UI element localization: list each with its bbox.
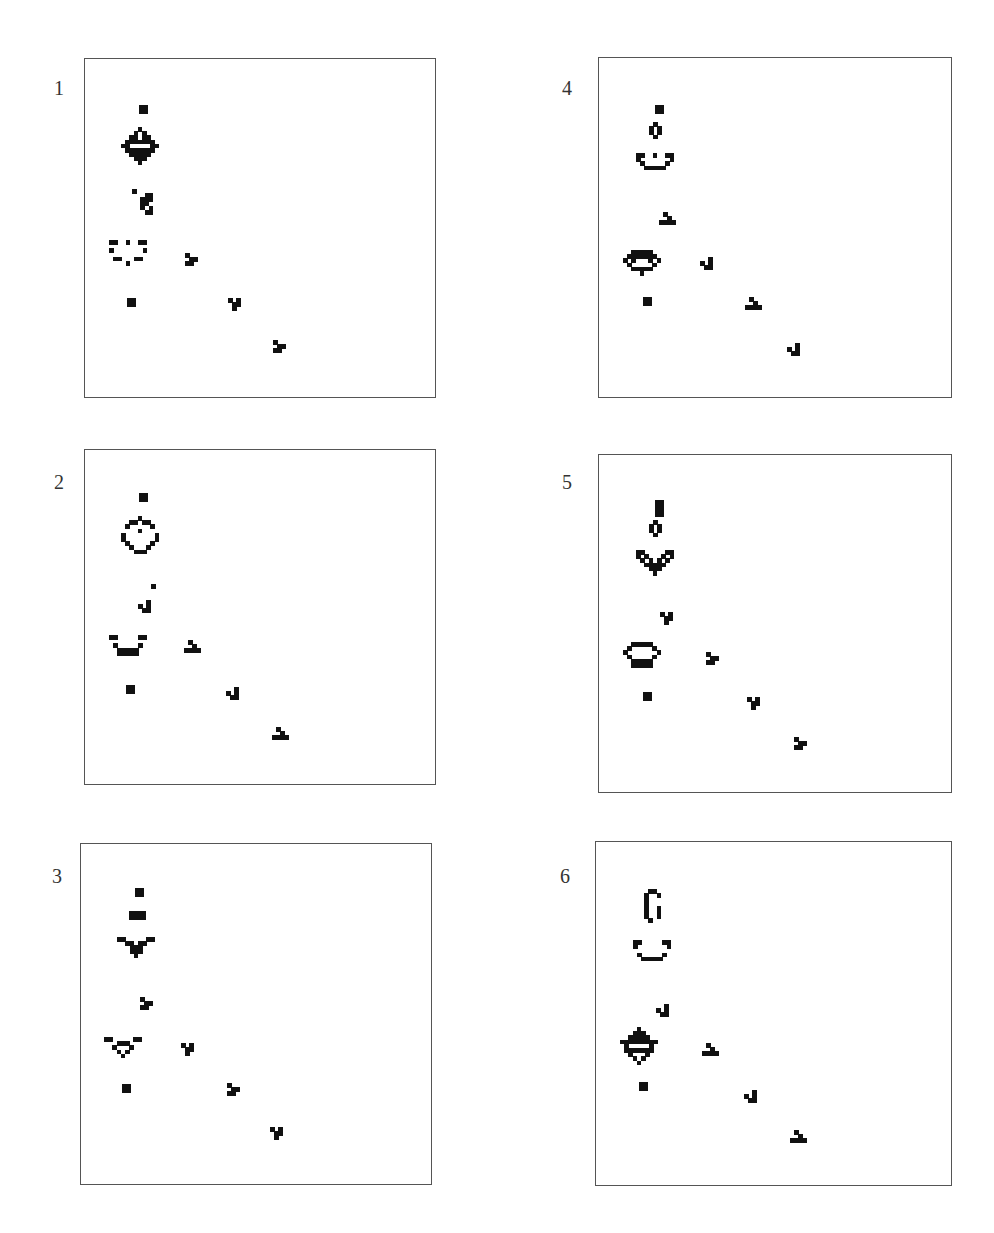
live-cell bbox=[649, 1048, 654, 1053]
panel-frame-1 bbox=[84, 58, 436, 398]
live-cell bbox=[653, 571, 658, 576]
panel-frame-3 bbox=[80, 843, 432, 1185]
live-cell bbox=[627, 646, 632, 651]
live-cell bbox=[146, 608, 151, 613]
live-cell bbox=[648, 663, 653, 668]
live-cell bbox=[654, 1040, 659, 1045]
live-cell bbox=[155, 144, 160, 149]
live-cell bbox=[130, 689, 135, 694]
live-cell bbox=[132, 189, 137, 194]
live-cell bbox=[667, 944, 672, 949]
live-cell bbox=[662, 953, 667, 958]
panel-frame-5 bbox=[598, 454, 952, 793]
panel-label: 4 bbox=[562, 78, 572, 98]
live-cell bbox=[138, 257, 143, 262]
live-cell bbox=[661, 166, 666, 171]
live-cell bbox=[126, 240, 131, 245]
live-cell bbox=[155, 537, 160, 542]
live-cell bbox=[657, 567, 662, 572]
live-cell bbox=[664, 620, 669, 625]
live-cell bbox=[710, 660, 715, 665]
live-cell bbox=[653, 135, 658, 140]
live-cell bbox=[139, 892, 144, 897]
live-cell bbox=[144, 1005, 149, 1010]
live-cell bbox=[647, 696, 652, 701]
live-cell bbox=[142, 550, 147, 555]
live-cell bbox=[235, 1087, 240, 1092]
live-cell bbox=[795, 351, 800, 356]
panel-label: 6 bbox=[560, 866, 570, 886]
live-cell bbox=[278, 1131, 283, 1136]
live-cell bbox=[134, 954, 139, 959]
live-cell bbox=[109, 248, 114, 253]
live-cell bbox=[138, 161, 143, 166]
live-cell bbox=[640, 153, 645, 158]
live-cell bbox=[113, 635, 118, 640]
live-cell bbox=[129, 1045, 134, 1050]
panel-label: 1 bbox=[54, 78, 64, 98]
live-cell bbox=[281, 344, 286, 349]
live-cell bbox=[802, 741, 807, 746]
live-cell bbox=[125, 524, 130, 529]
live-cell bbox=[665, 161, 670, 166]
live-cell bbox=[149, 197, 154, 202]
live-cell bbox=[659, 513, 664, 518]
live-cell bbox=[648, 918, 653, 923]
live-cell bbox=[108, 1037, 113, 1042]
live-cell bbox=[647, 301, 652, 306]
live-cell bbox=[121, 1054, 126, 1059]
live-cell bbox=[274, 1135, 279, 1140]
live-cell bbox=[752, 1098, 757, 1103]
live-cell bbox=[231, 1091, 236, 1096]
live-cell bbox=[657, 650, 662, 655]
live-cell bbox=[125, 1050, 130, 1055]
live-cell bbox=[189, 1047, 194, 1052]
live-cell bbox=[751, 705, 756, 710]
live-cell bbox=[134, 520, 139, 525]
live-cell bbox=[664, 1012, 669, 1017]
live-cell bbox=[277, 348, 282, 353]
live-cell bbox=[234, 695, 239, 700]
live-cell bbox=[113, 240, 118, 245]
live-cell bbox=[758, 305, 763, 310]
live-cell bbox=[143, 109, 148, 114]
live-cell bbox=[637, 1061, 642, 1066]
live-cell bbox=[637, 940, 642, 945]
live-cell bbox=[708, 265, 713, 270]
live-cell bbox=[657, 528, 662, 533]
live-cell bbox=[665, 558, 670, 563]
live-cell bbox=[151, 584, 156, 589]
live-cell bbox=[138, 529, 143, 534]
live-cell bbox=[197, 648, 202, 653]
live-cell bbox=[652, 263, 657, 268]
live-cell bbox=[657, 258, 662, 263]
live-cell bbox=[134, 652, 139, 657]
live-cell bbox=[668, 616, 673, 621]
live-cell bbox=[146, 152, 151, 157]
live-cell bbox=[658, 957, 663, 962]
live-cell bbox=[138, 950, 143, 955]
live-cell bbox=[146, 545, 151, 550]
live-cell bbox=[672, 220, 677, 225]
live-cell bbox=[143, 248, 148, 253]
panel-frame-2 bbox=[84, 449, 436, 785]
live-cell bbox=[150, 148, 155, 153]
live-cell bbox=[138, 643, 143, 648]
live-cell bbox=[285, 735, 290, 740]
live-cell bbox=[193, 257, 198, 262]
live-cell bbox=[150, 524, 155, 529]
live-cell bbox=[645, 1052, 650, 1057]
live-cell bbox=[148, 1001, 153, 1006]
live-cell bbox=[653, 153, 658, 158]
live-cell bbox=[657, 893, 662, 898]
live-cell bbox=[631, 258, 636, 263]
live-cell bbox=[648, 267, 653, 272]
panel-label: 5 bbox=[562, 472, 572, 492]
live-cell bbox=[653, 533, 658, 538]
live-cell bbox=[714, 656, 719, 661]
live-cell bbox=[189, 261, 194, 266]
live-cell bbox=[659, 109, 664, 114]
live-cell bbox=[641, 1056, 646, 1061]
live-cell bbox=[657, 914, 662, 919]
live-cell bbox=[142, 915, 147, 920]
